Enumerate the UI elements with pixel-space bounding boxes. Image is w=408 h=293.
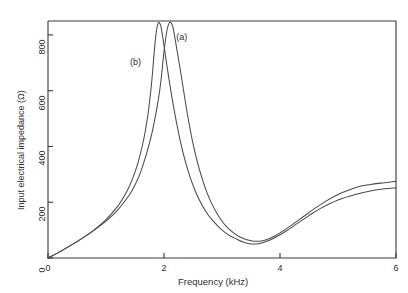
y-axis-tick-label: 400 — [37, 145, 47, 171]
y-axis-tick-label: 200 — [37, 201, 47, 227]
x-axis-title: Frequency (kHz) — [178, 276, 248, 287]
chart-figure: 0200400600800 0246 (a)(b) Input electric… — [0, 0, 408, 293]
x-axis-tick-label: 0 — [38, 263, 58, 273]
x-axis-tick-label: 6 — [386, 263, 406, 273]
curve-label-b: (b) — [130, 57, 141, 67]
curves-group — [48, 22, 396, 258]
curve-label-a: (a) — [176, 32, 187, 42]
y-axis-title: Input electrical impedance (Ω) — [16, 90, 26, 210]
y-axis-tick-label: 600 — [37, 90, 47, 116]
axes-group — [48, 21, 396, 258]
plot-canvas — [0, 0, 408, 293]
data-curve-a — [48, 22, 396, 258]
axis-frame — [48, 21, 396, 258]
x-axis-tick-label: 4 — [270, 263, 290, 273]
x-axis-tick-label: 2 — [154, 263, 174, 273]
data-curve-b — [48, 22, 396, 258]
y-axis-tick-label: 800 — [37, 34, 47, 60]
